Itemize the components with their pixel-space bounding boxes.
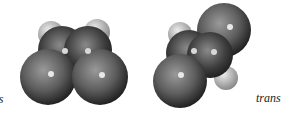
cis-molecule	[20, 19, 128, 105]
chlorine-atom	[153, 54, 207, 108]
molecule-figure	[0, 0, 295, 119]
chlorine-atom	[20, 49, 76, 105]
cis-label: cis	[0, 92, 3, 107]
trans-label: trans	[256, 91, 281, 106]
trans-molecule	[153, 3, 251, 108]
space-filling-models	[0, 0, 295, 119]
